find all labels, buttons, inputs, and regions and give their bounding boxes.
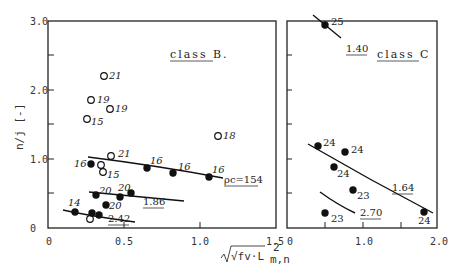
point-label: 16 [212,164,225,175]
point-label: 25 [331,16,344,27]
point-label: 16 [150,155,163,166]
fit-label: 2.42 [108,213,130,224]
y-tick-label: 1.0 [30,154,48,165]
fit-label: 2.70 [360,207,382,218]
y-tick-label: 3.0 [30,16,48,27]
point-label: 20 [117,182,131,193]
point-label: 24 [323,137,336,148]
point-label: 23 [331,213,344,224]
point-label: 20 [98,185,112,196]
point-label: 24 [337,168,350,179]
point-label: 23 [357,190,370,201]
point-label: 19 [115,103,128,114]
classC-title: class C [377,48,430,61]
fit-label: 1.64 [392,182,414,193]
y-tick-label: 2.0 [30,85,48,96]
point-label: 15 [91,116,104,127]
x-axis-label: √fv·L 2 m,n [221,241,290,266]
point-label: 21 [108,70,122,81]
x-tick-label: 1.0 [355,236,373,247]
point-label: 15 [107,169,120,180]
x-tick-label: 2.0 [430,236,448,247]
fit-label: 1.86 [143,196,165,207]
point-label: 16 [74,158,87,169]
chart-figure: 3.0 2.0 1.0 0 0 0.5 1.0 1.5 0 1.0 2.0 n/… [0,0,460,270]
point-label: 16 [178,161,191,172]
svg-text:√fv·L: √fv·L [231,250,264,263]
x-tick-label: 1.0 [191,236,209,247]
fit-label: 1.40 [346,43,368,54]
x-tick-label: 0 [287,236,293,247]
x-tick-label: 0.5 [115,236,133,247]
y-tick-label: 0 [30,223,36,234]
svg-text:m,n: m,n [270,253,290,266]
point-label: 24 [351,144,364,155]
y-axis-label: n/j [-] [13,104,26,150]
classB-title: class B. [170,48,229,61]
point-label: 14 [68,197,81,208]
y-ticks-left [48,55,401,228]
fit-lines-B [63,157,223,222]
point-label: 21 [117,148,131,159]
point-label: 18 [223,130,236,141]
fit-label: ρc=154 [224,174,263,185]
filled-points-B [71,160,212,218]
point-label: 19 [97,94,110,105]
point-label: 24 [418,215,431,226]
point-label: 20 [108,200,122,211]
x-tick-label: 0 [46,236,52,247]
